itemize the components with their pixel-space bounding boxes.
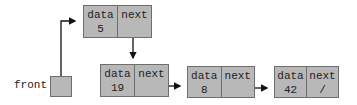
front-label: front <box>14 79 47 91</box>
data-cell: data 19 <box>101 65 134 96</box>
data-label: data <box>104 68 130 81</box>
next-label: next <box>309 70 335 83</box>
next-cell: next <box>221 67 255 97</box>
data-value: 19 <box>111 82 124 95</box>
next-cell: next <box>117 6 151 37</box>
data-label: data <box>191 70 217 83</box>
data-value: 8 <box>201 84 208 97</box>
list-node-8: data 8 next <box>187 66 255 98</box>
data-cell: data 42 <box>275 67 306 97</box>
next-label: next <box>138 68 164 81</box>
list-node-5: data 5 next <box>83 5 152 38</box>
data-cell: data 5 <box>84 6 117 37</box>
data-label: data <box>277 70 303 83</box>
null-pointer-slash: / <box>319 84 326 97</box>
next-label: next <box>225 70 251 83</box>
list-node-42: data 42 next / <box>274 66 339 98</box>
front-pointer-box <box>50 76 72 97</box>
next-cell: next / <box>306 67 338 97</box>
data-cell: data 8 <box>188 67 221 97</box>
next-cell: next <box>134 65 168 96</box>
next-label: next <box>121 9 147 22</box>
list-node-19: data 19 next <box>100 64 169 97</box>
data-value: 42 <box>284 84 297 97</box>
data-value: 5 <box>97 23 104 36</box>
data-label: data <box>87 9 113 22</box>
